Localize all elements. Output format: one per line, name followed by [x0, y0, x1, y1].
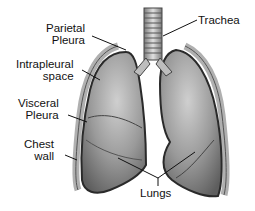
label-chest-wall: Chest wall [24, 138, 54, 162]
label-trachea: Trachea [198, 14, 240, 26]
trachea [144, 8, 162, 60]
label-visceral-pleura: Visceral Pleura [18, 97, 59, 121]
label-lungs: Lungs [140, 187, 171, 199]
leader-trachea [163, 20, 197, 36]
label-intrapleural-space: Intrapleural space [16, 58, 74, 82]
label-parietal-pleura: Parietal Pleura [46, 22, 85, 46]
